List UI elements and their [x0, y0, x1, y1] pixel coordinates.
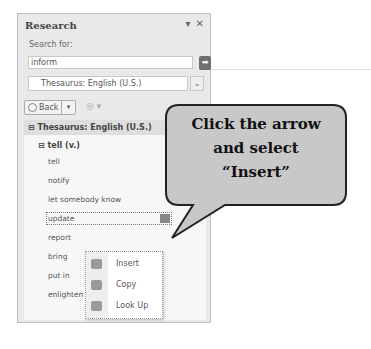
copy-icon	[91, 280, 102, 290]
pane-controls: ▾✕	[181, 18, 204, 29]
arrow-right-icon: ➡	[202, 58, 209, 67]
start-search-button[interactable]: ➡	[199, 56, 211, 70]
selection-box	[46, 212, 172, 225]
instruction-callout: Click the arrow and select “Insert”	[165, 104, 347, 207]
context-menu: Insert Copy Look Up	[85, 251, 163, 319]
back-button[interactable]: Back ▾	[24, 100, 76, 115]
callout-line: Click the arrow	[165, 112, 347, 136]
menu-item-insert[interactable]: Insert	[86, 254, 162, 274]
menu-item-look-up[interactable]: Look Up	[86, 296, 162, 316]
reference-source-select[interactable]: Thesaurus: English (U.S.)	[28, 76, 188, 91]
pane-options-icon[interactable]: ▾	[186, 18, 191, 29]
menu-item-copy[interactable]: Copy	[86, 275, 162, 295]
back-dropdown-icon[interactable]: ▾	[61, 101, 75, 114]
search-label: Search for:	[29, 40, 73, 49]
back-icon	[28, 103, 37, 112]
menu-item-label: Look Up	[116, 296, 148, 316]
divider-line	[211, 69, 371, 70]
back-label: Back	[39, 103, 58, 112]
close-icon[interactable]: ✕	[196, 18, 204, 29]
menu-item-label: Insert	[116, 254, 139, 274]
chevron-down-icon[interactable]: ⌄	[190, 76, 204, 91]
callout-line: “Insert”	[165, 160, 347, 184]
menu-item-label: Copy	[116, 275, 136, 295]
callout-text: Click the arrow and select “Insert”	[165, 112, 347, 184]
forward-button[interactable]: ◎ ▾	[86, 101, 101, 111]
insert-icon	[91, 259, 102, 269]
pane-title: Research	[25, 20, 77, 31]
search-input[interactable]: inform	[28, 56, 193, 69]
look-up-icon	[91, 301, 102, 311]
callout-line: and select	[165, 136, 347, 160]
